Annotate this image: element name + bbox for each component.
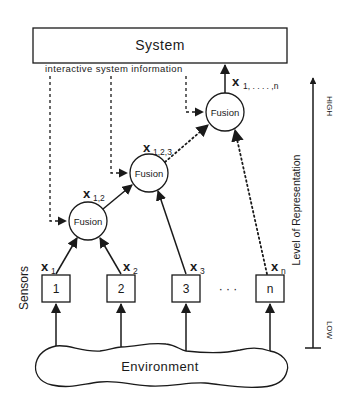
representation-axis: Level of Representation HIGH LOW xyxy=(290,78,334,348)
fusion-node-2: Fusion xyxy=(130,154,168,192)
feedback-line-fusion-1 xyxy=(50,76,66,221)
sensor-1: 1 x 1 xyxy=(41,259,70,302)
svg-text:n: n xyxy=(267,282,274,296)
svg-text:1,2: 1,2 xyxy=(93,193,105,203)
sensor-n: n x n xyxy=(256,259,286,302)
svg-text:Fusion: Fusion xyxy=(211,107,240,118)
svg-text:1: 1 xyxy=(51,266,56,276)
edge-fusion-1-to-2 xyxy=(103,185,132,209)
feedback-line-fusion-2 xyxy=(111,76,127,173)
system-label: System xyxy=(135,37,185,53)
svg-text:1,2,3: 1,2,3 xyxy=(153,147,172,157)
edge-sensor-n-to-fusion-3 xyxy=(235,130,267,274)
edge-sensor-3-to-fusion-2 xyxy=(158,191,186,274)
svg-text:x: x xyxy=(232,74,240,89)
svg-text:Fusion: Fusion xyxy=(135,168,164,179)
edge-sensor-2-to-fusion-1 xyxy=(100,238,121,274)
environment-cloud: Environment xyxy=(36,343,288,387)
sensors-group-label: Sensors xyxy=(17,266,31,310)
output-label-fusion-2: x 1,2,3 xyxy=(143,140,172,157)
system-box: System xyxy=(33,28,287,63)
svg-text:n: n xyxy=(281,266,286,276)
svg-text:x: x xyxy=(123,259,131,274)
svg-text:x: x xyxy=(41,259,49,274)
axis-label: Level of Representation xyxy=(290,154,302,265)
multisensor-fusion-diagram: System interactive system information x … xyxy=(0,0,352,402)
svg-text:x: x xyxy=(271,259,279,274)
feedback-line-fusion-3 xyxy=(186,76,203,112)
sensor-3: 3 x 3 xyxy=(172,259,205,302)
axis-low-label: LOW xyxy=(325,321,334,340)
output-label-fusion-3: x 1, . . . . ,n xyxy=(232,74,279,91)
svg-text:x: x xyxy=(190,259,198,274)
svg-text:3: 3 xyxy=(183,282,190,296)
svg-text:x: x xyxy=(143,140,151,155)
sensor-2: 2 x 2 xyxy=(107,259,138,302)
sensor-ellipsis: · · · xyxy=(219,282,238,296)
svg-text:x: x xyxy=(83,186,91,201)
svg-text:2: 2 xyxy=(133,266,138,276)
fusion-node-1: Fusion xyxy=(69,202,107,240)
svg-text:2: 2 xyxy=(118,282,125,296)
feedback-label: interactive system information xyxy=(45,63,183,74)
output-label-fusion-1: x 1,2 xyxy=(83,186,105,203)
axis-high-label: HIGH xyxy=(325,96,334,116)
environment-label: Environment xyxy=(121,359,198,374)
fusion-node-3: Fusion xyxy=(206,93,244,131)
svg-text:1, . . . . ,n: 1, . . . . ,n xyxy=(243,81,279,91)
edge-sensor-1-to-fusion-1 xyxy=(56,238,77,274)
svg-text:Fusion: Fusion xyxy=(74,216,103,227)
svg-text:1: 1 xyxy=(53,282,60,296)
svg-text:3: 3 xyxy=(200,266,205,276)
